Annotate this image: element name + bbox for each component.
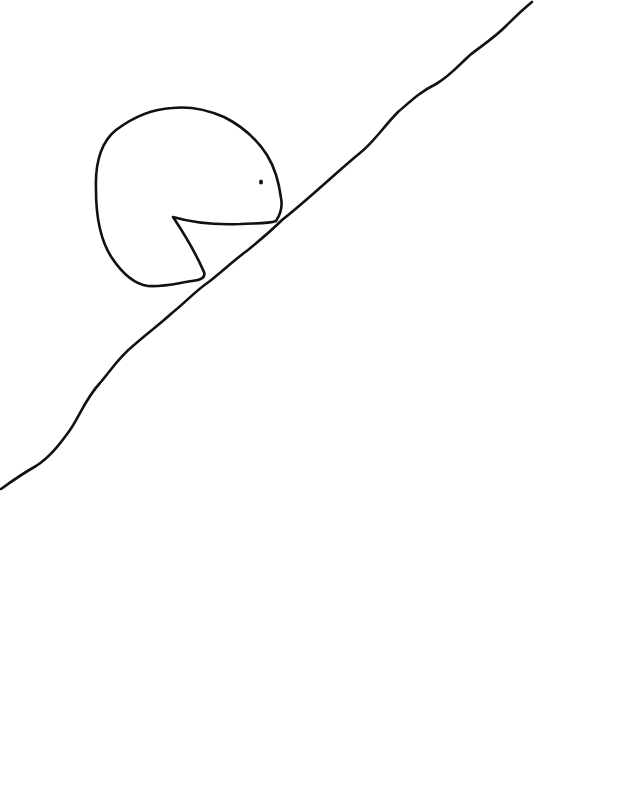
creature-eye bbox=[259, 179, 263, 184]
drawing-canvas bbox=[0, 0, 621, 808]
creature-body bbox=[96, 107, 282, 286]
slope-line bbox=[1, 2, 532, 489]
